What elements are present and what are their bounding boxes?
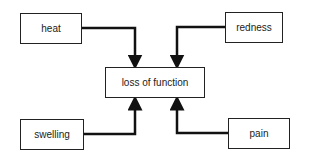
arrow-pain — [177, 103, 228, 133]
node-label: swelling — [34, 129, 70, 140]
node-heat: heat — [20, 13, 82, 44]
arrow-heat — [82, 28, 135, 62]
node-label: redness — [236, 22, 272, 33]
arrow-swelling — [84, 103, 135, 134]
node-label: pain — [250, 128, 269, 139]
node-swelling: swelling — [20, 119, 84, 150]
node-label: loss of function — [122, 77, 189, 88]
node-label: heat — [41, 23, 60, 34]
node-redness: redness — [225, 12, 283, 43]
arrow-redness — [177, 27, 225, 62]
node-pain: pain — [228, 118, 290, 149]
node-loss-of-function: loss of function — [105, 67, 205, 98]
